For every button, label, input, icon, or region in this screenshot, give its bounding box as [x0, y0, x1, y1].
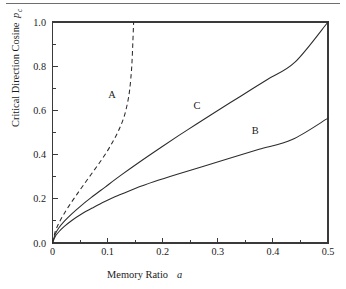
curve-label-a: A	[108, 89, 116, 100]
y-tick-label: 0.8	[33, 61, 46, 72]
chart-canvas: 00.10.20.30.40.50.00.20.40.60.81.0 ACB M…	[0, 0, 346, 289]
x-axis-title-variable: a	[177, 269, 182, 280]
x-axis-title-text: Memory Ratio	[107, 269, 168, 280]
data-curve-a	[53, 22, 134, 243]
x-tick-label: 0	[50, 246, 55, 257]
data-curves-group	[53, 22, 329, 243]
y-tick-label: 0.4	[33, 149, 46, 160]
axes-group	[53, 22, 329, 243]
x-tick-label: 0.3	[211, 246, 224, 257]
figure-root: 00.10.20.30.40.50.00.20.40.60.81.0 ACB M…	[0, 0, 346, 289]
plot-frame	[53, 22, 329, 243]
tick-labels-group: 00.10.20.30.40.50.00.20.40.60.81.0	[33, 17, 334, 257]
x-tick-label: 0.2	[156, 246, 169, 257]
x-tick-label: 0.1	[101, 246, 114, 257]
data-curve-b	[53, 118, 329, 243]
y-axis-title-subscript: c	[16, 8, 24, 12]
x-tick-label: 0.5	[322, 246, 335, 257]
y-tick-label: 0.0	[33, 238, 46, 249]
y-axis-title-text: Critical Direction Cosine	[10, 22, 21, 127]
y-tick-label: 0.2	[33, 193, 46, 204]
curve-label-c: C	[193, 100, 200, 111]
y-tick-label: 1.0	[33, 17, 46, 28]
y-tick-label: 0.6	[33, 105, 46, 116]
x-tick-label: 0.4	[267, 246, 280, 257]
y-axis-title-variable: p	[10, 13, 21, 19]
ticks-group	[53, 22, 329, 243]
curve-labels-group: ACB	[108, 89, 259, 136]
y-axis-title: Critical Direction Cosine p c	[10, 8, 24, 127]
x-axis-title: Memory Ratio a	[107, 269, 182, 280]
data-curve-c	[53, 22, 329, 243]
curve-label-b: B	[252, 125, 259, 136]
